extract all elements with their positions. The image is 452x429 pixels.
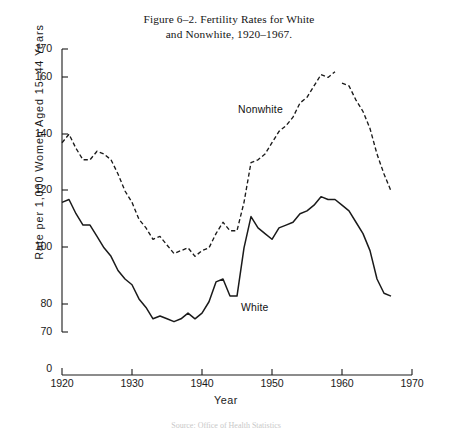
x-axis-tick-label: 1960: [320, 377, 364, 389]
x-tick-marks: [132, 369, 412, 375]
series-label-white: White: [241, 302, 269, 313]
y-axis-title-wrapper: Rate per 1,000 Women Aged 15–44 Years: [33, 17, 51, 267]
series-label-nonwhite: Nonwhite: [238, 104, 283, 115]
y-axis-tick-label: 70: [18, 325, 52, 337]
figure-container: Figure 6–2. Fertility Rates for White an…: [0, 0, 452, 429]
axis-lines: [62, 49, 412, 375]
x-axis-title: Year: [186, 394, 266, 406]
series-line-white: [62, 197, 391, 322]
x-axis-tick-label: 1940: [180, 377, 224, 389]
y-axis-tick-label: 80: [18, 297, 52, 309]
x-axis-tick-label: 1920: [40, 377, 84, 389]
chart-plot-area: [0, 0, 452, 429]
x-axis-tick-label: 1950: [250, 377, 294, 389]
source-note: Source: Office of Health Statistics: [0, 421, 452, 429]
series-group: [62, 72, 391, 322]
y-tick-marks: [62, 49, 68, 332]
y-axis-title: Rate per 1,000 Women Aged 15–44 Years: [33, 17, 45, 267]
series-line-nonwhite-post-break: [342, 83, 391, 191]
y-axis-tick-label: 0: [18, 362, 52, 374]
x-axis-tick-label: 1930: [110, 377, 154, 389]
x-axis-tick-label: 1970: [390, 377, 434, 389]
series-line-nonwhite: [62, 72, 335, 257]
